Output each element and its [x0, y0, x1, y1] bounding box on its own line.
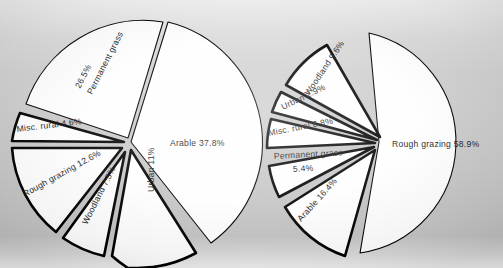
right-label-rough-grazing: Rough grazing 58.9%: [392, 139, 480, 149]
left-label-arable: Arable 37.8%: [170, 138, 225, 148]
left-pie-chart: Arable 37.8% Urban 11% Woodland 7.5% Rou…: [12, 20, 262, 268]
right-label-permanent-grass-value: 5.4%: [293, 163, 314, 174]
right-pie-chart: Rough grazing 58.9% Arable 16.4% Permane…: [267, 33, 480, 256]
pie-chart-figure: Arable 37.8% Urban 11% Woodland 7.5% Rou…: [0, 0, 503, 268]
left-label-urban: Urban 11%: [146, 147, 156, 192]
